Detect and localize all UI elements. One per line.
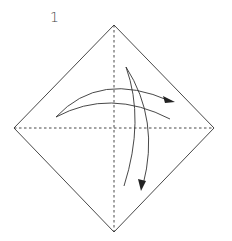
fold-arrow-horizontal: [56, 89, 175, 119]
origami-diagram: [0, 0, 232, 241]
arrowhead-right-icon: [163, 96, 175, 103]
fold-arrow-vertical: [124, 67, 149, 191]
arrowhead-down-icon: [138, 179, 146, 191]
